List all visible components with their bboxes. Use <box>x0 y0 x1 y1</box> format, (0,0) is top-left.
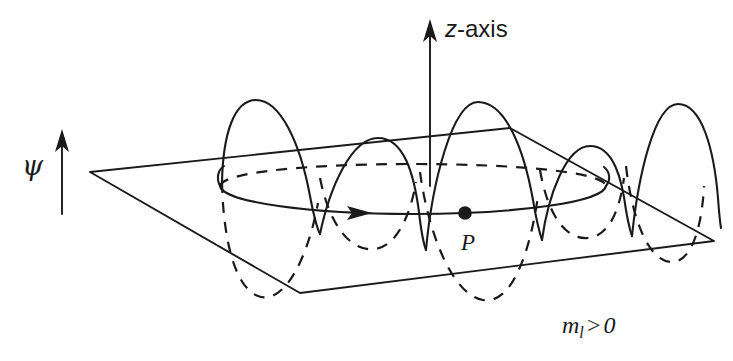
point-p-group <box>458 206 472 220</box>
z-axis-label: z-axis <box>445 17 508 41</box>
point-p-dot <box>458 206 472 220</box>
z-axis-label-suffix: -axis <box>457 15 508 42</box>
quantum-number-relation: > <box>584 312 604 338</box>
wave-lobe-solid-4 <box>542 146 632 240</box>
z-axis-label-symbol: z <box>445 15 457 42</box>
wavefunction-ring-diagram <box>0 0 733 361</box>
wave-lobe-solid-2 <box>320 138 426 250</box>
wave-lobe-solid-5 <box>632 104 721 236</box>
wave-lobe-solid-3 <box>426 102 542 250</box>
z-axis-group <box>423 19 437 186</box>
wave-solid-segments <box>222 100 721 250</box>
point-p-label: P <box>461 231 475 254</box>
quantum-number-condition-label: ml>0 <box>562 313 615 342</box>
quantum-number-symbol: m <box>562 312 579 338</box>
wave-lobe-dashed-4 <box>540 170 624 238</box>
wave-lobe-dashed-1 <box>222 182 318 297</box>
wave-lobe-dashed-3 <box>420 172 538 300</box>
quantum-number-value: 0 <box>603 312 615 338</box>
psi-axis-group <box>55 129 69 214</box>
figure-root: z-axis ψ P ml>0 <box>0 0 733 361</box>
psi-axis-label: ψ <box>22 152 43 179</box>
